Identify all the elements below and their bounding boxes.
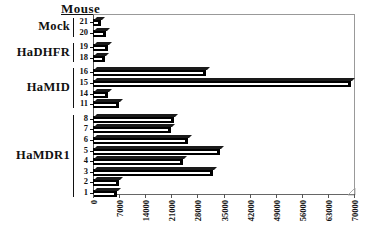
bar-highlight: [94, 129, 168, 131]
bar-1: [93, 190, 117, 197]
group-label-hadhfr: HaDHFR: [0, 45, 70, 60]
bar-6: [93, 137, 188, 144]
x-tick-70000: [354, 194, 355, 198]
bar-2: [93, 179, 119, 186]
bar-4: [93, 158, 183, 165]
bar-14: [93, 91, 108, 98]
bar-8: [93, 116, 174, 123]
bar-extrusion: [94, 89, 112, 92]
x-tick-label-14000: 14000: [141, 200, 151, 221]
x-tick-label-7000: 7000: [115, 200, 125, 217]
bar-20: [93, 30, 106, 37]
x-tick-0: [93, 194, 94, 198]
x-tick-35000: [224, 194, 225, 198]
bar-21: [93, 19, 101, 26]
x-tick-14000: [145, 194, 146, 198]
x-tick-label-42000: 42000: [246, 200, 256, 221]
bar-highlight: [94, 119, 171, 121]
bar-extrusion: [94, 67, 210, 70]
category-label-14: 14: [74, 89, 88, 98]
bar-extrusion: [94, 114, 178, 117]
bar-highlight: [94, 83, 348, 85]
x-tick-label-21000: 21000: [167, 200, 177, 221]
bar-5: [93, 148, 220, 155]
category-label-4: 4: [74, 156, 88, 165]
x-tick-label-49000: 49000: [272, 200, 282, 221]
bar-16: [93, 69, 206, 76]
bar-highlight: [94, 22, 98, 24]
bar-extrusion: [94, 135, 192, 138]
bar-highlight: [94, 33, 103, 35]
plot-right-edge: [354, 14, 355, 195]
bar-highlight: [94, 161, 180, 163]
x-tick-28000: [197, 194, 198, 198]
category-label-16: 16: [74, 67, 88, 76]
category-label-8: 8: [74, 114, 88, 123]
bar-highlight: [94, 182, 116, 184]
group-label-mock: Mock: [0, 19, 70, 34]
bar-highlight: [94, 140, 185, 142]
bar-highlight: [94, 193, 114, 195]
bar-highlight: [94, 47, 105, 49]
bar-11: [93, 101, 119, 108]
group-label-hamdr1: HaMDR1: [0, 148, 70, 163]
bar-highlight: [94, 72, 203, 74]
x-tick-label-28000: 28000: [193, 200, 203, 221]
x-tick-label-0: 0: [89, 200, 99, 204]
category-label-3: 3: [74, 167, 88, 176]
x-tick-49000: [276, 194, 277, 198]
x-tick-7000: [119, 194, 120, 198]
category-label-15: 15: [74, 78, 88, 87]
x-tick-42000: [250, 194, 251, 198]
bar-19: [93, 44, 108, 51]
bar-extrusion: [94, 124, 175, 127]
x-tick-label-70000: 70000: [350, 200, 360, 221]
bar-highlight: [94, 58, 102, 60]
category-label-11: 11: [74, 99, 88, 108]
category-label-21: 21: [74, 17, 88, 26]
bar-extrusion: [94, 78, 355, 81]
bar-18: [93, 55, 105, 62]
group-label-hamid: HaMID: [0, 80, 70, 95]
bar-7: [93, 126, 171, 133]
category-label-18: 18: [74, 53, 88, 62]
bar-extrusion: [94, 167, 217, 170]
x-tick-label-63000: 63000: [324, 200, 334, 221]
x-tick-56000: [302, 194, 303, 198]
bar-extrusion: [94, 28, 110, 31]
category-label-20: 20: [74, 28, 88, 37]
chart-root: Mouse MockHaDHFRHaMIDHaMDR1 212019181615…: [0, 0, 368, 246]
category-label-1: 1: [74, 188, 88, 197]
category-label-6: 6: [74, 135, 88, 144]
bar-extrusion: [94, 146, 224, 149]
bar-extrusion: [94, 188, 121, 191]
bar-extrusion: [94, 177, 123, 180]
category-label-7: 7: [74, 124, 88, 133]
x-tick-21000: [171, 194, 172, 198]
x-tick-label-56000: 56000: [298, 200, 308, 221]
bar-highlight: [94, 104, 116, 106]
bar-extrusion: [94, 156, 187, 159]
bar-extrusion: [94, 99, 123, 102]
bar-highlight: [94, 151, 217, 153]
category-label-2: 2: [74, 177, 88, 186]
bar-15: [93, 80, 351, 87]
x-tick-label-35000: 35000: [220, 200, 230, 221]
category-label-5: 5: [74, 146, 88, 155]
x-tick-63000: [328, 194, 329, 198]
bar-highlight: [94, 94, 105, 96]
bar-3: [93, 169, 213, 176]
bar-highlight: [94, 172, 210, 174]
category-label-19: 19: [74, 42, 88, 51]
